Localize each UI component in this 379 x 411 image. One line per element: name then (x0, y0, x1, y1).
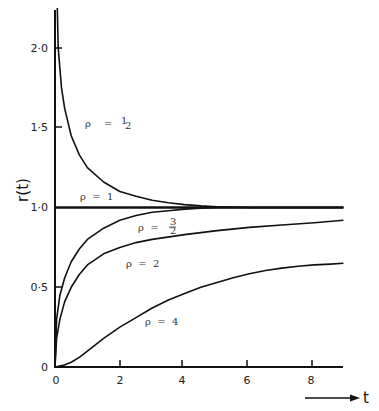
x-tick-label-4: 4 (179, 374, 186, 387)
y-tick-label-2: 2·0 (31, 42, 49, 55)
curve-2 (55, 220, 343, 367)
label-rho-four: ρ = 4 (145, 316, 178, 327)
curve-1-2 (57, 8, 343, 207)
x-tick-label-2: 2 (117, 374, 124, 387)
plot-curves (55, 8, 343, 367)
y-tick-label-1: 1·0 (31, 201, 49, 214)
x-axis-title: t (363, 389, 369, 407)
svg-text:=: = (104, 118, 112, 129)
x-axis-arrow-icon (350, 395, 360, 402)
y-tick-label-1-5: 1·5 (31, 121, 49, 134)
y-axis-title: r(t) (14, 178, 32, 202)
x-tick-label-6: 6 (244, 374, 251, 387)
svg-text:ρ =: ρ = (138, 222, 159, 233)
svg-text:2: 2 (170, 225, 176, 236)
chart: 2·0 1·5 1·0 0·5 0 0 2 4 6 8 r(t) t ρ = 1… (0, 0, 379, 411)
label-rho-three-halves: ρ = 3 2 (138, 216, 176, 236)
curve-4 (55, 263, 343, 367)
y-tick-label-0: 0 (41, 361, 48, 374)
label-rho-two: ρ = 2 (126, 258, 159, 269)
x-ticks (120, 360, 312, 367)
label-rho-one: ρ = 1 (80, 191, 113, 202)
x-tick-label-0: 0 (53, 374, 60, 387)
x-tick-label-8: 8 (308, 374, 315, 387)
svg-text:ρ: ρ (85, 118, 91, 129)
label-rho-half: ρ = 1 2 (85, 115, 131, 131)
svg-text:2: 2 (125, 120, 131, 131)
y-tick-label-0-5: 0·5 (31, 281, 49, 294)
